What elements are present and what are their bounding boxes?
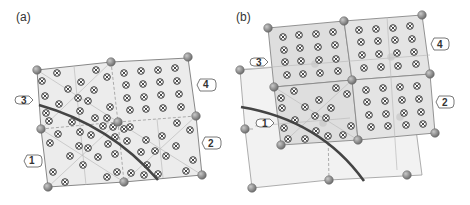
node (418, 11, 427, 20)
node (277, 141, 286, 150)
svg-text:4: 4 (437, 39, 443, 50)
node (248, 184, 257, 193)
node (431, 129, 440, 138)
svg-text:2: 2 (442, 97, 448, 108)
panel-b: 3 1 4 2 (236, 11, 454, 193)
node (33, 66, 42, 75)
node (426, 70, 435, 79)
node (241, 125, 250, 134)
node (184, 53, 193, 62)
cell-4-b (344, 15, 430, 80)
node (107, 58, 116, 67)
node (348, 76, 357, 85)
node (403, 171, 412, 180)
node (198, 171, 207, 180)
node (340, 17, 349, 26)
node (192, 112, 201, 121)
svg-text:3: 3 (21, 95, 27, 106)
node (325, 176, 334, 185)
region-label-2-b: 2 (436, 96, 454, 108)
diagram-canvas: 3 1 4 2 (0, 0, 470, 205)
svg-text:2: 2 (208, 138, 214, 149)
svg-text:3: 3 (256, 57, 262, 68)
region-label-4-a: 4 (197, 79, 216, 91)
svg-text:1: 1 (262, 118, 268, 129)
node (354, 136, 363, 145)
node (264, 24, 273, 33)
svg-text:4: 4 (203, 79, 209, 90)
cell-3-b (268, 21, 352, 87)
node (120, 178, 129, 187)
node (236, 66, 245, 75)
region-label-4-b: 4 (431, 38, 449, 50)
region-label-3-a: 3 (15, 95, 33, 106)
panel-a: 3 1 4 2 (15, 53, 221, 192)
node (37, 125, 46, 134)
region-label-3-b: 3 (250, 57, 268, 68)
node (270, 83, 279, 92)
region-label-2-a: 2 (202, 137, 221, 149)
node (44, 183, 53, 192)
region-label-1-a: 1 (24, 155, 42, 167)
svg-text:1: 1 (29, 155, 35, 166)
cell-2-b (352, 74, 435, 140)
node (114, 118, 123, 127)
